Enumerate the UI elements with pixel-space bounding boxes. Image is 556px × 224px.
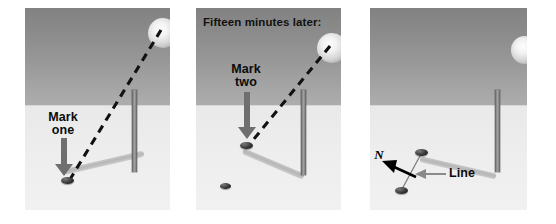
figure-root: Mark one Fifteen minutes later: Mark two	[0, 0, 556, 224]
arrow-stem	[61, 138, 67, 165]
sun-icon	[148, 18, 170, 48]
pebble-mark-two	[415, 149, 428, 156]
ground-background	[196, 105, 341, 210]
pebble-mark-one	[220, 183, 231, 189]
horizon-line	[25, 105, 170, 106]
gnomon-pole	[132, 90, 137, 172]
ground-background	[370, 105, 527, 210]
arrow-head	[55, 164, 73, 176]
sky-background	[25, 8, 170, 105]
north-direction-label: N	[372, 148, 386, 162]
mark-two-arrow	[238, 92, 256, 139]
pebble-mark-one	[61, 177, 74, 184]
pebble-mark-one	[395, 187, 408, 194]
pebble-mark-two	[240, 142, 253, 149]
mark-one-label: Mark one	[32, 111, 94, 137]
gnomon-pole	[301, 90, 306, 175]
horizon-line	[370, 105, 527, 106]
horizon-line	[196, 105, 341, 106]
arrow-stem	[244, 92, 250, 128]
mark-one-arrow	[55, 138, 73, 176]
arrow-head	[238, 127, 256, 139]
mark-two-label: Mark two	[215, 63, 277, 89]
line-label: Line	[449, 167, 483, 180]
panel-two-caption: Fifteen minutes later:	[203, 16, 322, 28]
panel-three: N Line	[370, 8, 527, 210]
panel-one: Mark one	[25, 8, 170, 210]
panel-two: Fifteen minutes later: Mark two	[196, 8, 341, 210]
gnomon-pole	[495, 90, 500, 172]
sun-icon	[317, 33, 341, 63]
sky-background	[370, 8, 527, 105]
